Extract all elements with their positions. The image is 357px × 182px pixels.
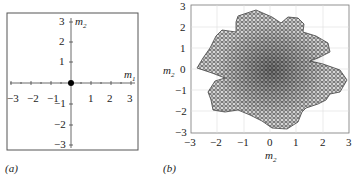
b-xtick: −1 xyxy=(237,136,249,148)
b-xtick: 3 xyxy=(346,136,352,148)
b-xlabel: m2 xyxy=(265,149,276,164)
b-ytick: 2 xyxy=(180,21,186,33)
b-xtick: 2 xyxy=(320,136,326,148)
b-ytick: 3 xyxy=(180,0,186,12)
b-xtick: −2 xyxy=(210,136,222,148)
b-xtick: 0 xyxy=(267,136,273,148)
b-xtick: −3 xyxy=(184,136,196,148)
b-ytick: −1 xyxy=(175,84,187,96)
b-ytick: 0 xyxy=(180,63,186,75)
b-ylabel: m2 xyxy=(163,64,174,79)
b-ytick: 1 xyxy=(180,42,186,54)
b-ytick: −2 xyxy=(175,105,187,117)
b-xtick: 1 xyxy=(293,136,299,148)
panel-b-label: (b) xyxy=(163,162,176,174)
